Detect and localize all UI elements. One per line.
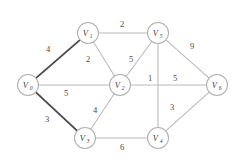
node-v5[interactable]: V5 — [148, 23, 169, 44]
edge-weight-v0-v3: 3 — [45, 114, 49, 124]
node-v3[interactable]: V3 — [75, 128, 96, 149]
graph-figure: V0V1V2V3V4V5V6 453225451963 — [0, 0, 238, 162]
edge-v1-v2 — [94, 42, 115, 76]
edge-v0-v3 — [36, 92, 78, 131]
node-subscript-v4: 4 — [160, 138, 163, 144]
node-subscript-v5: 5 — [160, 33, 163, 39]
edge-weight-v2-v5: 5 — [129, 54, 133, 64]
node-v6[interactable]: V6 — [207, 75, 228, 96]
edge-v0-v1 — [36, 40, 80, 78]
edge-weight-v5-v6: 9 — [190, 41, 194, 51]
edge-weight-v2-v3: 4 — [93, 105, 98, 115]
graph-canvas: V0V1V2V3V4V5V6 453225451963 — [0, 0, 238, 162]
edge-weight-v2-v6: 5 — [173, 73, 177, 83]
edge-weight-v0-v2: 5 — [64, 88, 68, 98]
edge-weight-v0-v1: 4 — [46, 44, 51, 54]
edge-weight-v5-v4: 1 — [148, 73, 152, 83]
node-subscript-v0: 0 — [30, 85, 33, 91]
node-subscript-v2: 2 — [122, 85, 125, 91]
edge-weight-v1-v5: 2 — [120, 19, 124, 29]
node-v4[interactable]: V4 — [148, 128, 169, 149]
node-subscript-v6: 6 — [219, 85, 222, 91]
edge-weight-v3-v4: 6 — [120, 142, 124, 152]
edge-weight-v4-v6: 3 — [170, 102, 174, 112]
node-subscript-v1: 1 — [90, 33, 93, 39]
edge-weight-v1-v2: 2 — [86, 54, 90, 64]
node-v1[interactable]: V1 — [78, 23, 99, 44]
node-subscript-v3: 3 — [86, 138, 90, 144]
node-v2[interactable]: V2 — [110, 75, 131, 96]
node-v0[interactable]: V0 — [18, 75, 39, 96]
